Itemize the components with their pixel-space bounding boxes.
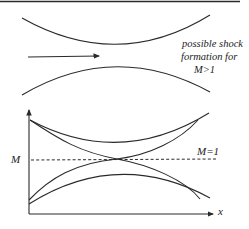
annotation-line-2: formation for <box>181 50 243 63</box>
annotation-line-1: possible shock <box>182 37 243 50</box>
curve-upper-outer <box>30 113 209 142</box>
shock-annotation: possible shock formation for M>1 <box>182 37 243 76</box>
mach-one-label: M=1 <box>197 145 219 157</box>
x-axis-label: x <box>218 205 223 217</box>
curve-lower-outer <box>29 174 210 204</box>
y-axis-label: M <box>11 153 20 165</box>
flow-direction-arrow <box>28 56 99 57</box>
annotation-line-3: M>1 <box>194 63 243 76</box>
nozzle-flow-diagram: possible shock formation for M>1 M M=1 x <box>0 0 249 229</box>
diagram-svg <box>0 0 249 229</box>
